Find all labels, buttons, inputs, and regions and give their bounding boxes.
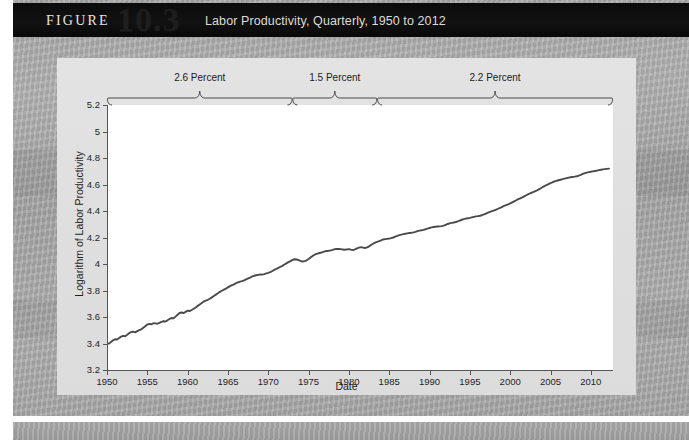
y-tick (103, 185, 107, 186)
productivity-line (107, 105, 613, 370)
x-axis-title: Date (57, 380, 636, 392)
y-tick (103, 211, 107, 212)
y-tick (103, 132, 107, 133)
y-axis-title: Logarithm of Labor Productivity (73, 114, 85, 334)
chart-panel: 3.23.43.63.844.24.44.64.855.219501955196… (57, 58, 636, 395)
y-tick (103, 158, 107, 159)
bracket (293, 91, 377, 105)
x-axis-line (107, 370, 613, 371)
x-tick (551, 371, 552, 375)
y-tick (103, 238, 107, 239)
x-tick (389, 371, 390, 375)
figure-title-bar: FIGURE 10.3 Labor Productivity, Quarterl… (13, 3, 689, 37)
bracket-label: 2.2 Percent (435, 72, 555, 83)
x-tick (188, 371, 189, 375)
y-tick-label: 3.2 (57, 365, 100, 375)
y-tick (103, 317, 107, 318)
line-chart: 3.23.43.63.844.24.44.64.855.219501955196… (57, 58, 636, 395)
x-tick (147, 371, 148, 375)
x-tick (349, 371, 350, 375)
x-tick (309, 371, 310, 375)
figure-page: FIGURE 10.3 Labor Productivity, Quarterl… (0, 0, 689, 440)
y-tick-label: 3.4 (57, 339, 100, 349)
bracket (107, 91, 292, 105)
x-tick (470, 371, 471, 375)
y-tick-label: 5.2 (57, 100, 100, 110)
y-tick (103, 264, 107, 265)
x-tick (268, 371, 269, 375)
plot-area (107, 105, 613, 370)
bracket-label: 1.5 Percent (275, 72, 395, 83)
y-tick (103, 291, 107, 292)
bracket (378, 91, 613, 105)
bracket-label: 2.6 Percent (140, 72, 260, 83)
x-tick (591, 371, 592, 375)
x-tick (510, 371, 511, 375)
page-left-edge (0, 0, 13, 440)
page-lower-strip (13, 422, 689, 440)
figure-caption: Labor Productivity, Quarterly, 1950 to 2… (205, 14, 446, 28)
y-tick (103, 344, 107, 345)
figure-word-label: FIGURE (46, 13, 110, 29)
y-axis-line (107, 105, 108, 370)
x-tick (228, 371, 229, 375)
figure-number: 10.3 (117, 3, 181, 37)
x-tick (430, 371, 431, 375)
y-tick (103, 105, 107, 106)
x-tick (107, 371, 108, 375)
